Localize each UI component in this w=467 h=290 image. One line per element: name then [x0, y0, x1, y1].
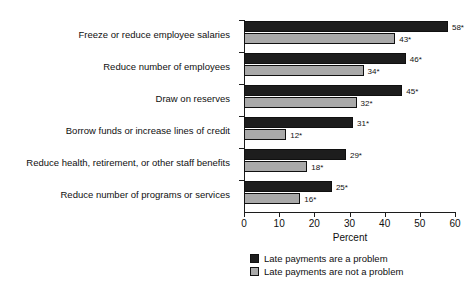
bar[interactable]: [244, 53, 406, 64]
bar[interactable]: [244, 181, 332, 192]
category-label: Freeze or reduce employee salaries: [78, 29, 230, 40]
plot-area: 58*43*46*34*45*32*31*12*29*18*25*16*: [244, 20, 455, 212]
x-axis-tick: [385, 213, 386, 217]
category-axis-labels: Freeze or reduce employee salariesReduce…: [0, 20, 237, 212]
x-axis-tick-label: 60: [449, 218, 460, 229]
category-label: Reduce number of programs or services: [61, 189, 231, 200]
chart-page: Freeze or reduce employee salariesReduce…: [0, 0, 467, 290]
bar-value-label: 12*: [290, 130, 302, 139]
legend-label: Late payments are a problem: [264, 253, 388, 264]
x-axis-tick-label: 10: [274, 218, 285, 229]
bar-value-label: 58*: [452, 22, 464, 31]
x-axis-tick: [244, 213, 245, 217]
bar[interactable]: [244, 149, 346, 160]
bar-group: 29*18*: [244, 148, 455, 180]
category-label: Reduce number of employees: [103, 61, 230, 72]
bar[interactable]: [244, 129, 286, 140]
x-axis-tick: [420, 213, 421, 217]
legend-item[interactable]: Late payments are a problem: [250, 252, 403, 265]
bar[interactable]: [244, 85, 402, 96]
bar-group: 58*43*: [244, 20, 455, 52]
bar-value-label: 18*: [311, 162, 323, 171]
bar[interactable]: [244, 193, 300, 204]
legend-label: Late payments are not a problem: [264, 266, 403, 277]
x-axis-tick-label: 30: [344, 218, 355, 229]
bar-value-label: 46*: [410, 54, 422, 63]
bar-value-label: 16*: [304, 194, 316, 203]
chart-legend: Late payments are a problemLate payments…: [250, 252, 403, 278]
bar[interactable]: [244, 33, 395, 44]
bar-group: 45*32*: [244, 84, 455, 116]
bar-group: 31*12*: [244, 116, 455, 148]
x-axis-tick-label: 20: [309, 218, 320, 229]
bar-value-label: 43*: [399, 34, 411, 43]
category-label: Reduce health, retirement, or other staf…: [26, 157, 230, 168]
bar[interactable]: [244, 161, 307, 172]
bar-value-label: 45*: [406, 86, 418, 95]
bar-value-label: 32*: [361, 98, 373, 107]
bar[interactable]: [244, 97, 357, 108]
x-axis-title: Percent: [244, 232, 456, 243]
legend-swatch-light: [250, 267, 259, 276]
bar-value-label: 25*: [336, 182, 348, 191]
x-axis-tick: [314, 213, 315, 217]
x-axis-tick: [350, 213, 351, 217]
bar[interactable]: [244, 117, 353, 128]
bar-group: 25*16*: [244, 180, 455, 212]
x-axis-tick-label: 50: [414, 218, 425, 229]
x-axis-tick: [279, 213, 280, 217]
legend-item[interactable]: Late payments are not a problem: [250, 265, 403, 278]
bar-value-label: 31*: [357, 118, 369, 127]
category-label: Borrow funds or increase lines of credit: [66, 125, 230, 136]
bar[interactable]: [244, 65, 364, 76]
x-axis-tick-label: 40: [379, 218, 390, 229]
x-axis-tick: [455, 213, 456, 217]
bar-group: 46*34*: [244, 52, 455, 84]
bar[interactable]: [244, 21, 448, 32]
bar-value-label: 29*: [350, 150, 362, 159]
legend-swatch-dark: [250, 254, 259, 263]
category-label: Draw on reserves: [156, 93, 230, 104]
bar-value-label: 34*: [368, 66, 380, 75]
x-axis-tick-label: 0: [241, 218, 247, 229]
